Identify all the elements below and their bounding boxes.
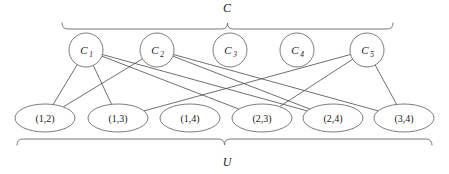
node-label: C bbox=[151, 44, 159, 56]
edge-c1-u23 bbox=[102, 56, 239, 109]
node-label: C bbox=[291, 44, 299, 56]
edge-c1-u13 bbox=[93, 65, 111, 104]
node-label-subscript: 2 bbox=[160, 50, 164, 59]
top-node-c3[interactable]: C3 bbox=[213, 33, 247, 67]
node-label-subscript: 5 bbox=[370, 50, 374, 59]
diagram-canvas: C U C1C2C3C4C5 (1,2)(1,3)(1,4)(2,3)(2,4)… bbox=[0, 0, 449, 174]
node-label-subscript: 3 bbox=[232, 50, 237, 59]
set-label-C: C bbox=[223, 1, 232, 15]
edge-c1-u12 bbox=[53, 65, 77, 105]
bottom-node-u23[interactable]: (2,3) bbox=[232, 104, 292, 132]
node-label: C bbox=[80, 44, 88, 56]
bottom-node-u14[interactable]: (1,4) bbox=[160, 104, 220, 132]
top-node-c1[interactable]: C1 bbox=[69, 33, 103, 67]
node-label: (3,4) bbox=[394, 113, 413, 125]
node-label-subscript: 4 bbox=[300, 50, 304, 59]
top-node-c2[interactable]: C2 bbox=[140, 33, 174, 67]
node-label: (1,2) bbox=[35, 113, 54, 125]
node-label: (1,4) bbox=[180, 113, 199, 125]
bottom-node-u13[interactable]: (1,3) bbox=[88, 104, 148, 132]
node-label: C bbox=[361, 44, 369, 56]
brace-bottom-U bbox=[17, 139, 432, 145]
node-label-subscript: 1 bbox=[89, 50, 93, 59]
top-node-c4[interactable]: C4 bbox=[280, 33, 314, 67]
node-label: C bbox=[224, 44, 232, 56]
top-brace-group: C bbox=[62, 1, 393, 29]
bottom-node-u24[interactable]: (2,4) bbox=[303, 104, 363, 132]
bottom-node-u12[interactable]: (1,2) bbox=[15, 104, 75, 132]
node-label: (1,3) bbox=[108, 113, 127, 125]
bottom-node-u34[interactable]: (3,4) bbox=[374, 104, 434, 132]
edge-c2-u12 bbox=[63, 59, 142, 107]
set-cover-bipartite-diagram: C U C1C2C3C4C5 (1,2)(1,3)(1,4)(2,3)(2,4)… bbox=[0, 0, 449, 174]
node-label: (2,4) bbox=[323, 113, 342, 125]
set-label-U: U bbox=[223, 155, 233, 169]
edge-c5-u23 bbox=[280, 59, 353, 106]
edge-c5-u13 bbox=[144, 54, 351, 110]
edge-c5-u34 bbox=[375, 65, 396, 105]
top-node-c5[interactable]: C5 bbox=[350, 33, 384, 67]
bottom-brace-group: U bbox=[17, 139, 432, 169]
brace-top-C bbox=[62, 23, 393, 29]
bottom-nodes-group: (1,2)(1,3)(1,4)(2,3)(2,4)(3,4) bbox=[15, 104, 434, 132]
node-label: (2,3) bbox=[252, 113, 271, 125]
